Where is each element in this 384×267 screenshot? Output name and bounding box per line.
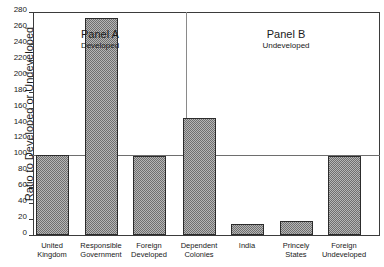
y-tick-label: 160: [14, 102, 27, 110]
y-tick-label: 20: [18, 213, 27, 221]
y-tick-label: 180: [14, 86, 27, 94]
y-tick-label: 60: [18, 181, 27, 189]
panel-title: Panel A: [52, 28, 148, 41]
panel-title: Panel B: [216, 28, 356, 41]
y-tick-label: 40: [18, 197, 27, 205]
panel-subtitle: Undeveloped: [216, 41, 356, 51]
y-tick-label: 280: [14, 6, 27, 14]
bar-foreign-developed: [133, 156, 166, 235]
y-tick-label: 240: [14, 38, 27, 46]
panel-annotation-panel-a: Panel ADeveloped: [52, 28, 148, 51]
bar-dependent-colonies: [183, 118, 216, 235]
clipped-chart-title: [0, 0, 384, 7]
bar-foreign-undeveloped: [328, 156, 361, 235]
x-label-line2: Undeveloped: [314, 250, 374, 259]
bar-chart: Ratio to Developed or Undeveloped 280260…: [0, 0, 384, 267]
bar-princely-states: [280, 221, 313, 235]
y-tick-label: 220: [14, 54, 27, 62]
panel-annotation-panel-b: Panel BUndeveloped: [216, 28, 356, 51]
y-tick-label: 140: [14, 118, 27, 126]
y-tick-label: 100: [14, 149, 27, 157]
y-tick-label: 120: [14, 133, 27, 141]
x-label-line1: Foreign: [314, 241, 374, 250]
y-tick-label: 0: [23, 229, 27, 237]
panel-subtitle: Developed: [52, 41, 148, 51]
y-tick-label: 80: [18, 165, 27, 173]
bar-india: [231, 224, 264, 235]
y-tick-label: 200: [14, 70, 27, 78]
bar-united-kingdom: [36, 155, 69, 235]
y-tick-label: 260: [14, 22, 27, 30]
x-label-line2: Colonies: [169, 250, 229, 259]
x-label-foreign-undeveloped: ForeignUndeveloped: [314, 241, 374, 259]
